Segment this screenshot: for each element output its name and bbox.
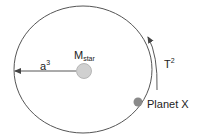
star-label: Mstar [74,50,95,62]
period-label: T2 [164,57,175,70]
period-arrow [148,37,157,90]
star [77,64,92,79]
orbit-diagram [0,0,201,140]
planet-label: Planet X [147,99,189,110]
planet [134,98,143,107]
semi-major-axis-label: a3 [40,59,50,72]
